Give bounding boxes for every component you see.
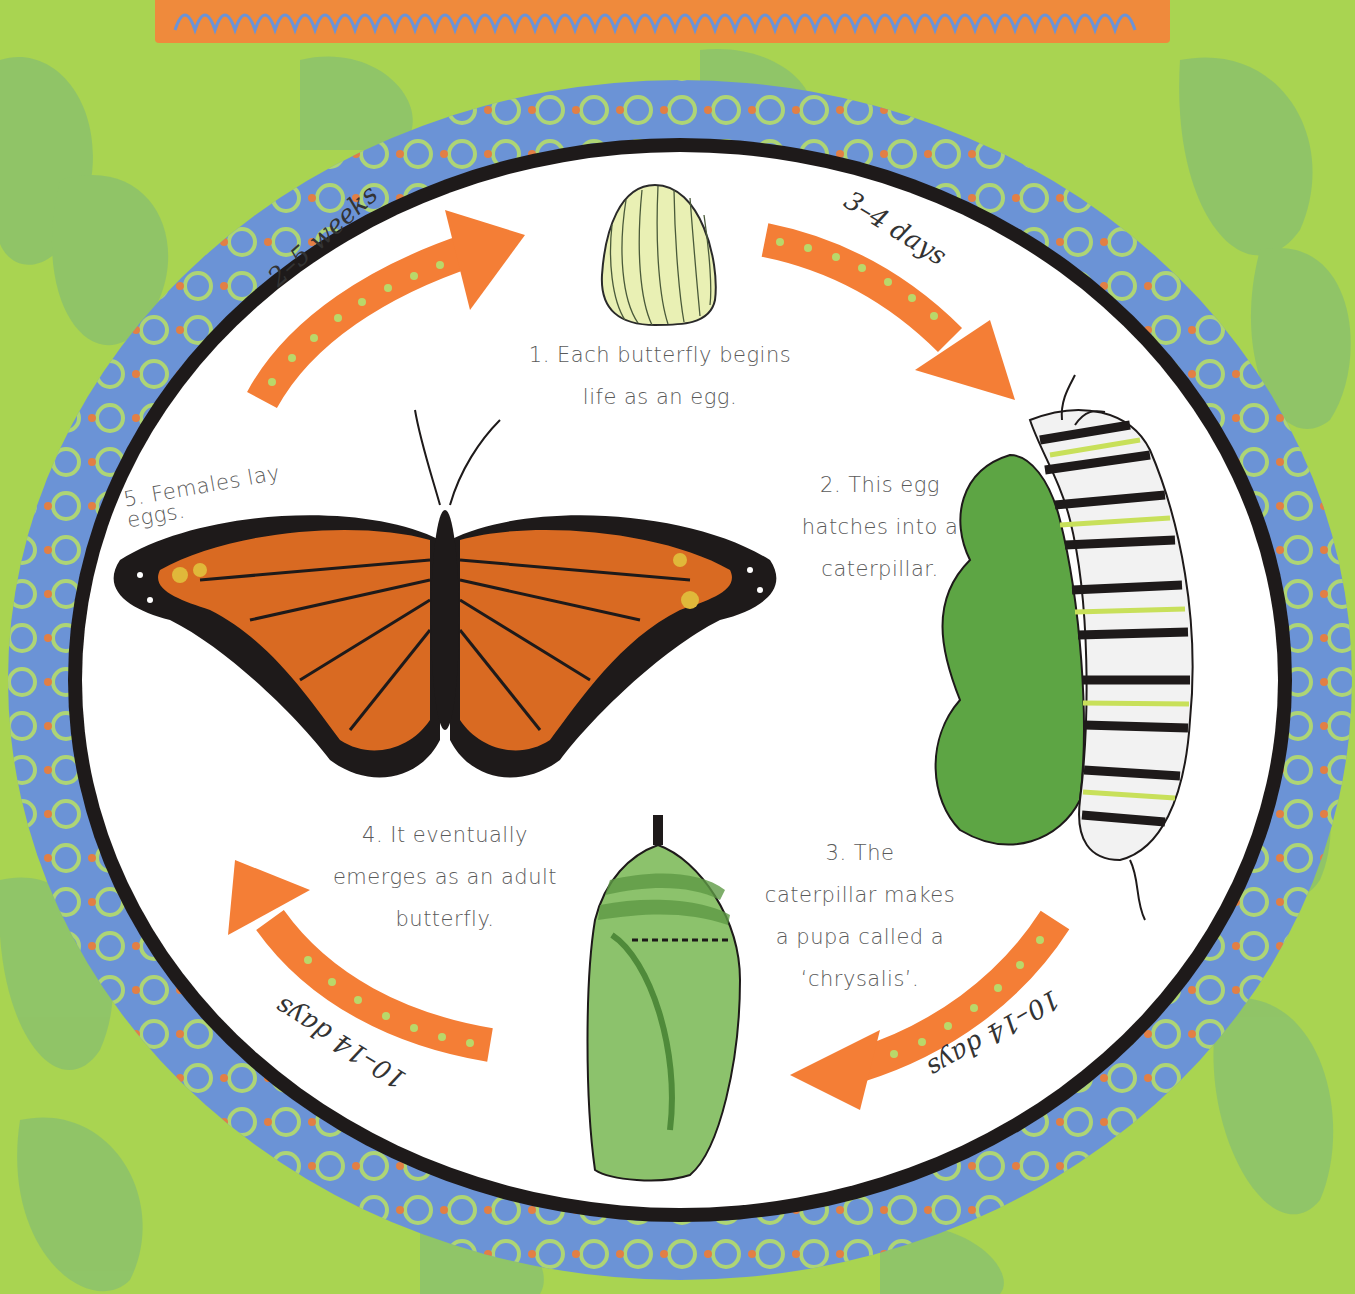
- caption-line: 3. The: [760, 843, 960, 864]
- caption-line: hatches into a: [790, 517, 970, 538]
- caption-line: 2. This egg: [790, 475, 970, 496]
- caption-line: butterfly.: [330, 909, 560, 930]
- stage-1-egg-caption: 1. Each butterfly begins life as an egg.: [500, 345, 820, 429]
- stage-3-chrysalis-caption: 3. The caterpillar makes a pupa called a…: [760, 843, 960, 1011]
- caption-line: 1. Each butterfly begins: [500, 345, 820, 366]
- caption-line: emerges as an adult: [330, 867, 560, 888]
- stage-4-butterfly-caption: 4. It eventually emerges as an adult but…: [330, 825, 560, 951]
- caption-line: 4. It eventually: [330, 825, 560, 846]
- life-cycle-diagram: [0, 0, 1355, 1294]
- caption-line: a pupa called a: [760, 927, 960, 948]
- caption-line: ‘chrysalis’.: [760, 969, 960, 990]
- caption-line: caterpillar.: [790, 559, 970, 580]
- caption-line: life as an egg.: [500, 387, 820, 408]
- stage-2-caterpillar-caption: 2. This egg hatches into a caterpillar.: [790, 475, 970, 601]
- caption-line: caterpillar makes: [760, 885, 960, 906]
